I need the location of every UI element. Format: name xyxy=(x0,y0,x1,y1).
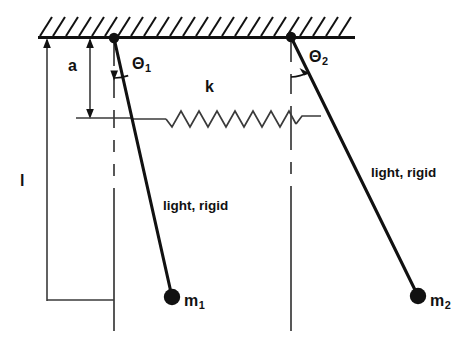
pivot-1 xyxy=(109,33,119,43)
label-rod-1-note: light, rigid xyxy=(163,199,228,213)
dimension-l-arrowhead-icon xyxy=(43,38,51,48)
label-rod-2-note: light, rigid xyxy=(371,166,436,180)
mass-1-symbol: m xyxy=(184,292,198,309)
rod-1 xyxy=(114,38,172,297)
label-spring-constant-k: k xyxy=(205,79,214,95)
angle-2-symbol: Θ xyxy=(309,48,321,65)
label-angle-theta-1: Θ1 xyxy=(132,56,151,72)
label-offset-a: a xyxy=(68,58,77,74)
mass-2 xyxy=(410,288,426,304)
ceiling-hatching-icon xyxy=(40,17,351,36)
spring-lead-right xyxy=(296,116,321,124)
mass-2-symbol: m xyxy=(430,292,444,309)
label-angle-theta-2: Θ2 xyxy=(309,49,328,65)
label-mass-1: m1 xyxy=(184,293,204,309)
dimension-a-arrowhead-top-icon xyxy=(86,38,94,48)
spring-coils-icon xyxy=(166,111,296,127)
dimension-l-group xyxy=(43,38,114,301)
label-mass-2: m2 xyxy=(430,293,450,309)
angle-arc-1-arrowhead-icon xyxy=(110,71,118,81)
mass-2-subscript: 2 xyxy=(445,299,451,311)
angle-1-subscript: 1 xyxy=(145,62,151,74)
physics-diagram: a l k Θ1 Θ2 light, rigid light, rigid m1… xyxy=(0,0,476,340)
pivot-2 xyxy=(286,32,296,42)
angle-2-subscript: 2 xyxy=(322,55,328,67)
ceiling-group xyxy=(38,17,355,38)
angle-1-symbol: Θ xyxy=(132,55,144,72)
mass-1 xyxy=(164,289,180,305)
mass-1-subscript: 1 xyxy=(199,299,205,311)
spring-group xyxy=(133,111,321,127)
angle-arc-1-group xyxy=(110,71,128,81)
label-length-l: l xyxy=(20,173,24,189)
